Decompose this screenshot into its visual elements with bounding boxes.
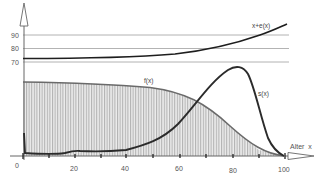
label-f: f(x): [144, 77, 153, 85]
life-table-chart: 0 20 40 60 80 100 90 80 70 Alter x x+e(x…: [0, 0, 322, 180]
y-tick-90: 90: [11, 32, 19, 39]
y-axis-arrow-icon: [20, 3, 28, 26]
x-tick-20: 20: [70, 165, 78, 172]
y-tick-80: 80: [11, 45, 19, 52]
label-x-plus-e: x+e(x): [252, 22, 270, 30]
label-s: s(x): [258, 90, 269, 98]
x-tick-80: 80: [229, 167, 237, 174]
x-tick-40: 40: [121, 165, 129, 172]
x-tick-100: 100: [278, 166, 290, 173]
curve-x-plus-e: [23, 24, 287, 59]
x-axis-arrow-icon: [288, 153, 314, 160]
x-tick-60: 60: [175, 165, 183, 172]
x-tick-0: 0: [15, 162, 19, 169]
survival-area-fill: [23, 82, 285, 156]
y-tick-70: 70: [11, 59, 19, 66]
x-axis-label: Alter x: [290, 143, 312, 150]
